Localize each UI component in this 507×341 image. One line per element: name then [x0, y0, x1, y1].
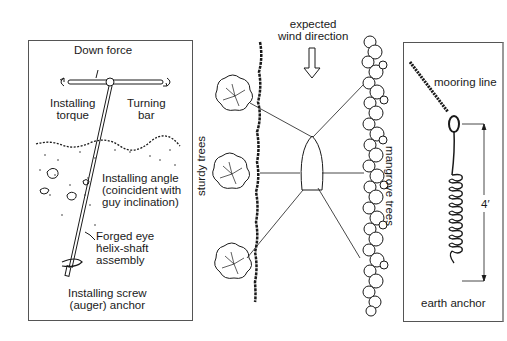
label-line: guy inclination) [102, 196, 181, 208]
tree-icon [213, 153, 250, 188]
tree-icon [215, 243, 252, 278]
boat-icon [301, 136, 323, 190]
left-shoreline [255, 42, 261, 302]
label-turning-bar: Turning bar [127, 97, 166, 121]
label-line: Installing [50, 97, 95, 109]
label-length: 4′ [480, 198, 491, 210]
label-line: bar [127, 109, 166, 121]
label-wind-direction: expected wind direction [278, 18, 348, 42]
torque-arrow-right-icon [167, 78, 170, 86]
rock-icon [47, 168, 58, 178]
label-line: Installing angle [102, 172, 181, 184]
label-mangrove-trees: mangrove trees [384, 146, 396, 226]
label-installing-angle: Installing angle (coincident with guy in… [102, 172, 181, 208]
label-line: expected [278, 18, 348, 30]
wind-arrow-icon [304, 48, 320, 78]
label-line: Turning [127, 97, 166, 109]
label-forged-eye: Forged eye helix-shaft assembly [96, 230, 154, 266]
forged-eye-pointer [85, 232, 95, 240]
label-installing-torque: Installing torque [50, 97, 95, 121]
caption-screw-anchor: Installing screw (auger) anchor [68, 287, 147, 311]
caption-earth-anchor: earth anchor [421, 297, 486, 309]
label-line: Installing screw [68, 287, 147, 299]
label-line: Forged eye [96, 230, 154, 242]
label-line: wind direction [278, 30, 348, 42]
helix-icon [62, 259, 82, 267]
label-line: assembly [96, 254, 154, 266]
label-mooring-line: mooring line [434, 76, 497, 88]
tree-icon [216, 75, 253, 110]
rock-icon [40, 188, 49, 194]
label-line: torque [50, 109, 95, 121]
label-sturdy-trees: sturdy trees [195, 136, 207, 196]
label-down-force: Down force [74, 44, 132, 56]
soil-surface [36, 136, 180, 150]
mooring-plan-drawing [213, 36, 388, 316]
label-line: (auger) anchor [68, 299, 147, 311]
label-line: helix-shaft [96, 242, 154, 254]
label-line: (coincident with [102, 184, 181, 196]
rock-icon [67, 192, 76, 200]
down-force-pointer [96, 70, 98, 78]
turning-bar-icon [68, 78, 163, 86]
